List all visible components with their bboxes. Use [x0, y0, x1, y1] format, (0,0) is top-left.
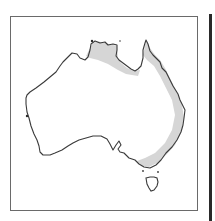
coastline-tasmania [146, 177, 158, 191]
island-dot [26, 115, 28, 117]
range-east [137, 40, 184, 167]
island-dot [142, 170, 144, 172]
range-north [86, 41, 140, 76]
island-dot [119, 40, 121, 42]
island-dot [157, 171, 159, 173]
island-dot [91, 40, 93, 42]
australia-map [0, 0, 215, 221]
